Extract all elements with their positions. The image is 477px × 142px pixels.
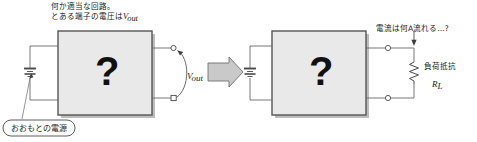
left-source-wiring xyxy=(30,46,58,100)
left-caption-line1: 何か適当な回路。 xyxy=(51,2,115,12)
load-resistor-label: 負荷抵抗 xyxy=(424,62,456,72)
right-terminal-bottom xyxy=(385,95,390,100)
load-resistor-symbol xyxy=(410,62,419,84)
source-callout-leader xyxy=(22,73,33,119)
left-caption-line2: とある端子の電圧はVout xyxy=(51,12,138,22)
left-terminal-bottom xyxy=(171,95,176,100)
load-resistor-symbol-label: RL xyxy=(432,73,443,91)
right-box-question-mark: ? xyxy=(309,51,333,91)
left-caption-line2-text: とある端子の電圧は xyxy=(51,12,123,21)
load-resistor-R: R xyxy=(432,79,438,89)
vout-label-symbol: V xyxy=(187,71,192,81)
circuit-diagram-canvas: 何か適当な回路。 とある端子の電圧はVout ? おおもとの電源 Vout 電流… xyxy=(0,0,477,142)
right-terminal-top xyxy=(385,45,390,50)
battery-symbol xyxy=(24,69,36,77)
left-caption-vout-subscript: out xyxy=(127,14,138,23)
left-box-question-mark: ? xyxy=(95,51,119,91)
left-terminal-top xyxy=(171,45,176,50)
vout-measure-arc xyxy=(177,51,187,98)
vout-label-subscript: out xyxy=(192,73,204,83)
source-callout-label: おおもとの電源 xyxy=(11,124,67,134)
right-output-leads xyxy=(366,48,414,98)
battery-symbol-right xyxy=(244,69,256,77)
right-source-wiring xyxy=(250,46,272,100)
vout-label: Vout xyxy=(187,65,203,83)
current-question-label: 電流は何A流れる…? xyxy=(376,24,449,34)
transition-arrow-icon xyxy=(208,57,243,87)
load-resistor-subscript: L xyxy=(438,81,443,91)
